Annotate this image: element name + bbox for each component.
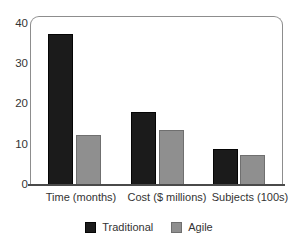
- legend-item-traditional: Traditional: [85, 221, 153, 233]
- chart-legend: Traditional Agile: [0, 218, 298, 236]
- legend-swatch-icon-traditional: [85, 222, 96, 233]
- bar-chart: 40 30 20 10 0 Time (months) Cost ($ mill…: [0, 0, 298, 239]
- bar-agile-time: [76, 135, 101, 185]
- legend-label-traditional: Traditional: [102, 221, 153, 233]
- bar-traditional-subjects: [213, 149, 238, 185]
- bar-agile-cost: [159, 130, 184, 185]
- legend-label-agile: Agile: [188, 221, 212, 233]
- x-axis-baseline: [28, 184, 285, 186]
- bar-agile-subjects: [240, 155, 265, 185]
- legend-item-agile: Agile: [171, 221, 212, 233]
- bar-traditional-cost: [131, 112, 156, 185]
- legend-swatch-icon-agile: [171, 222, 182, 233]
- category-label-subjects: Subjects (100s): [194, 191, 298, 204]
- bar-traditional-time: [48, 34, 73, 185]
- x-axis-category-labels: Time (months) Cost ($ millions) Subjects…: [30, 191, 283, 209]
